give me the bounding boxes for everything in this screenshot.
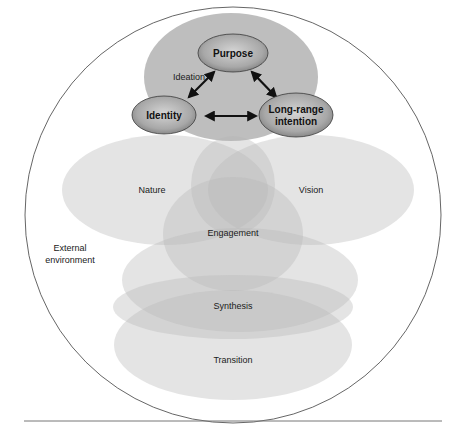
external-environment-label-line2: environment <box>45 255 95 265</box>
synthesis-label: Synthesis <box>213 301 253 311</box>
engagement-label: Engagement <box>207 228 259 238</box>
diagram-canvas: Ideation Purpose Identity Long-range int… <box>0 0 466 426</box>
external-environment-label-line1: External <box>53 243 86 253</box>
ideation-label: Ideation <box>173 72 205 82</box>
transition-label: Transition <box>213 355 252 365</box>
vision-label: Vision <box>299 185 323 195</box>
long-range-intention-label-line2: intention <box>275 116 317 127</box>
identity-label: Identity <box>146 110 182 121</box>
nature-label: Nature <box>138 185 165 195</box>
long-range-intention-label-line1: Long-range <box>269 104 324 115</box>
long-range-intention-node <box>259 93 333 137</box>
purpose-label: Purpose <box>213 48 253 59</box>
